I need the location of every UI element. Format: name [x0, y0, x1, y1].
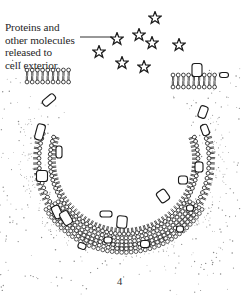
protein-blob-icon: [197, 105, 209, 119]
protein-blob-icon: [100, 211, 112, 217]
released-molecules: [93, 12, 185, 73]
page-number: 4: [117, 276, 122, 287]
protein-blob-icon: [155, 188, 170, 204]
star-icon: [111, 33, 123, 45]
annotation-line-3: released to: [5, 46, 75, 59]
star-icon: [116, 57, 128, 69]
protein-blob-icon: [56, 146, 62, 158]
annotation-line-1: Proteins and: [5, 21, 75, 34]
protein-blob-icon: [179, 176, 188, 184]
star-icon: [93, 46, 105, 58]
exocytosis-figure: Proteins and other molecules released to…: [0, 0, 241, 295]
protein-blob-icon: [116, 216, 127, 229]
protein-blob-icon: [192, 64, 202, 77]
protein-blob-icon: [41, 93, 56, 107]
protein-blob-icon: [200, 124, 210, 137]
annotation-line-4: cell exterior: [5, 59, 75, 72]
protein-blob-icon: [220, 73, 229, 78]
protein-blob-icon: [37, 171, 48, 182]
star-icon: [146, 37, 158, 49]
protein-blob-icon: [187, 205, 194, 211]
star-icon: [133, 29, 145, 41]
protein-blob-icon: [195, 162, 203, 172]
protein-blob-icon: [177, 226, 184, 232]
star-icon: [138, 61, 150, 73]
star-icon: [173, 39, 185, 51]
annotation-label: Proteins and other molecules released to…: [5, 21, 75, 71]
protein-blob-icon: [141, 241, 150, 248]
protein-blob-icon: [34, 123, 46, 141]
star-icon: [149, 12, 161, 24]
protein-blob-icon: [104, 237, 112, 243]
annotation-line-2: other molecules: [5, 34, 75, 47]
